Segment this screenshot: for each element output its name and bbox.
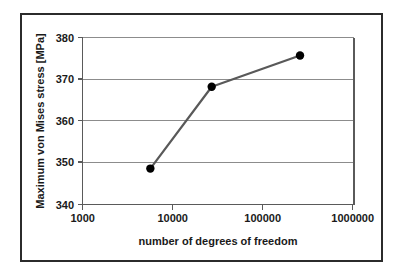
y-tick-labels: 380 370 360 350 340 bbox=[56, 32, 74, 211]
gridlines-horizontal bbox=[83, 38, 354, 205]
data-point-marker bbox=[296, 51, 304, 59]
y-tick-label-380: 380 bbox=[56, 32, 74, 44]
x-tick-label-1000000: 1000000 bbox=[331, 212, 374, 224]
data-point-marker bbox=[208, 83, 216, 91]
x-tick-label-10000: 10000 bbox=[157, 212, 188, 224]
x-tick-label-100000: 100000 bbox=[244, 212, 281, 224]
x-tick-labels: 1000 10000 100000 1000000 bbox=[70, 212, 374, 224]
y-tick-label-350: 350 bbox=[56, 156, 74, 168]
x-tick-label-1000: 1000 bbox=[70, 212, 94, 224]
x-axis-title: number of degrees of freedom bbox=[139, 235, 298, 247]
series-line-von-mises bbox=[150, 55, 300, 168]
line-chart: 380 370 360 350 340 1000 10000 100000 10… bbox=[0, 0, 402, 280]
y-axis-title: Maximum von Mises stress [MPa] bbox=[34, 33, 46, 209]
data-series-group bbox=[146, 51, 304, 173]
x-tick-marks bbox=[83, 205, 353, 210]
y-tick-marks bbox=[78, 38, 83, 205]
y-tick-label-360: 360 bbox=[56, 115, 74, 127]
y-tick-label-370: 370 bbox=[56, 73, 74, 85]
y-tick-label-340: 340 bbox=[56, 199, 74, 211]
data-point-marker bbox=[146, 164, 154, 172]
chart-figure: 380 370 360 350 340 1000 10000 100000 10… bbox=[0, 0, 402, 280]
